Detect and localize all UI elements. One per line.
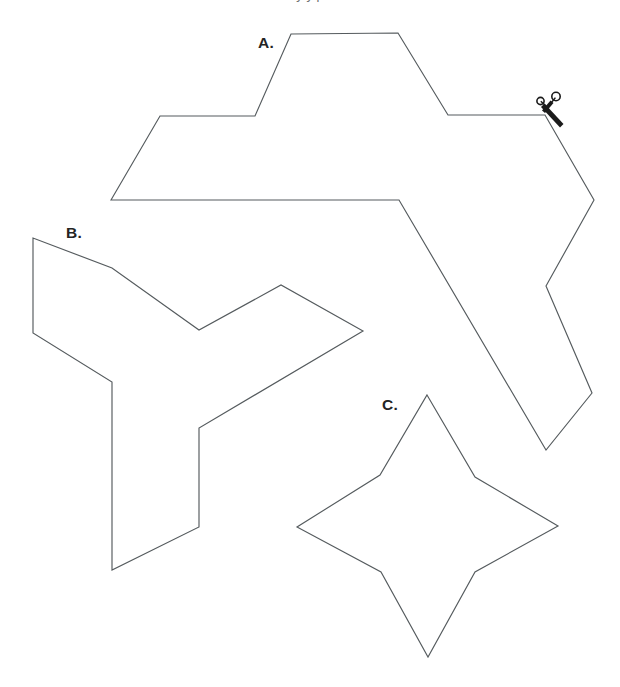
shape-c-group: C.: [297, 395, 558, 657]
scissors-ring-right: [552, 92, 560, 100]
scissors-icon: [537, 92, 564, 127]
shape-a-label: A.: [258, 34, 274, 51]
shape-b-group: B.: [33, 224, 363, 570]
shape-a-outline: [111, 33, 594, 450]
shape-a-group: A.: [111, 33, 594, 450]
shapes-figure: A. B. C.: [0, 0, 620, 687]
shape-c-label: C.: [382, 396, 398, 413]
figure-canvas: y y p A. B. C.: [0, 0, 620, 687]
shape-b-outline: [33, 238, 363, 570]
shape-c-outline: [297, 395, 558, 657]
scissors-ring-left: [537, 97, 544, 104]
shape-b-label: B.: [66, 224, 82, 241]
